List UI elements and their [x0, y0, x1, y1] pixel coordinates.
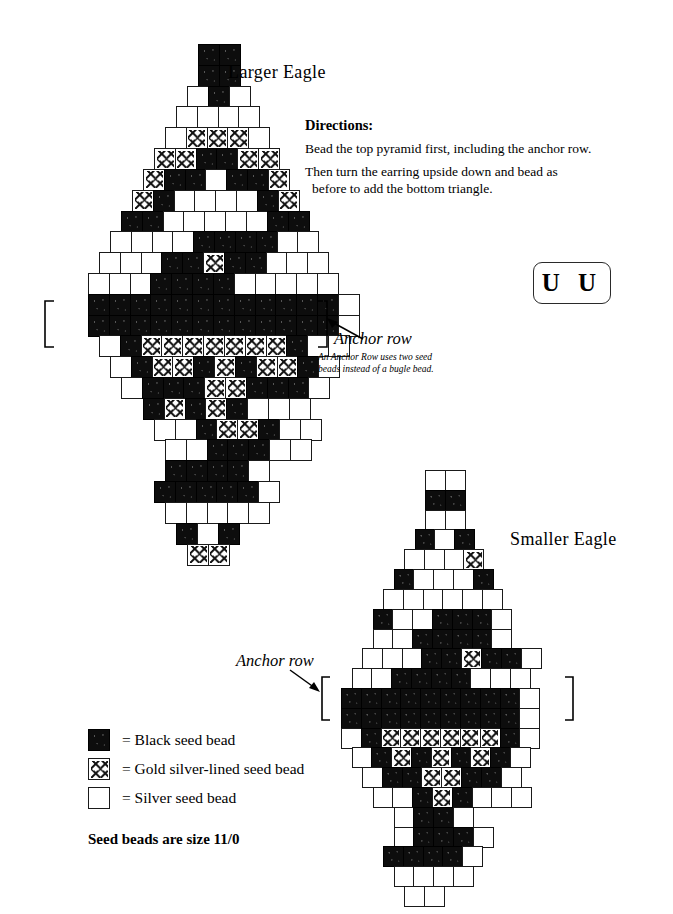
directions-heading: Directions: — [305, 117, 605, 134]
bead-cell-black — [109, 315, 131, 337]
bead-cell-gold — [258, 148, 280, 170]
bead-row — [373, 609, 541, 630]
bead-cell-black — [296, 315, 318, 337]
bead-cell-gold — [277, 356, 299, 378]
bead-cell-silver — [352, 747, 373, 768]
bead-row-anchor — [341, 688, 540, 709]
bead-row — [187, 544, 359, 566]
bead-cell-gold — [421, 767, 442, 788]
bead-cell-silver — [236, 190, 258, 212]
bead-cell-gold — [205, 398, 227, 420]
bead-cell-silver — [176, 106, 198, 128]
bead-cell-silver — [247, 398, 269, 420]
bead-cell-silver — [453, 807, 474, 828]
bead-cell-silver — [218, 106, 240, 128]
bead-cell-silver — [392, 609, 413, 630]
bead-cell-silver — [383, 589, 404, 610]
bead-row — [154, 481, 359, 503]
bead-row — [121, 377, 359, 399]
bead-cell-gold — [172, 356, 194, 378]
bead-cell-black — [163, 377, 185, 399]
bead-cell-silver — [163, 211, 185, 233]
directions-line-2a: Then turn the earring upside down and be… — [305, 164, 558, 179]
bead-cell-silver — [275, 273, 297, 295]
bead-cell-gold — [391, 747, 412, 768]
bead-cell-black — [413, 807, 434, 828]
bead-cell-silver — [207, 502, 229, 524]
bead-row — [404, 886, 540, 907]
bead-cell-gold — [266, 335, 288, 357]
bead-cell-silver — [521, 648, 542, 669]
bead-cell-black — [402, 767, 423, 788]
bead-cell-silver — [453, 866, 474, 887]
anchor-arrow-small — [288, 668, 322, 698]
bead-cell-gold — [461, 648, 482, 669]
legend-swatch-gold — [88, 758, 110, 780]
bead-cell-black — [501, 648, 522, 669]
bead-cell-black — [216, 481, 238, 503]
bead-cell-black — [500, 728, 521, 749]
bead-cell-silver — [165, 439, 187, 461]
bead-cell-silver — [121, 377, 143, 399]
bead-cell-silver — [187, 86, 209, 108]
anchor-row-note: An Anchor Row uses two seed beads instea… — [318, 351, 478, 375]
bead-cell-black — [130, 315, 152, 337]
bead-cell-silver — [462, 846, 483, 867]
bead-cell-black — [207, 460, 229, 482]
anchor-bracket-left-large — [42, 300, 56, 348]
bead-cell-gold — [400, 728, 421, 749]
anchor-bracket-left-small — [319, 676, 332, 721]
bead-cell-silver — [373, 787, 394, 808]
bead-cell-gold — [182, 335, 204, 357]
bead-cell-black — [150, 273, 172, 295]
bead-cell-black — [171, 273, 193, 295]
bead-row — [362, 767, 540, 788]
bead-cell-gold — [227, 127, 249, 149]
bead-cell-black — [391, 668, 412, 689]
bead-cell-black — [453, 827, 474, 848]
bead-cell-gold — [470, 747, 491, 768]
bead-cell-black — [420, 688, 441, 709]
bead-cell-black — [193, 356, 215, 378]
bead-cell-black — [442, 846, 463, 867]
bead-cell-black — [142, 211, 164, 233]
bead-cell-silver — [472, 787, 493, 808]
bead-cell-black — [237, 481, 259, 503]
bead-cell-black — [143, 398, 165, 420]
bead-cell-black — [120, 335, 142, 357]
bead-cell-gold — [154, 148, 176, 170]
bead-row — [121, 211, 359, 233]
bead-cell-black — [445, 490, 466, 511]
bead-cell-black — [415, 529, 436, 550]
bead-row — [394, 569, 541, 590]
bead-cell-silver — [186, 502, 208, 524]
bead-cell-black — [432, 609, 453, 630]
bead-cell-black — [207, 439, 229, 461]
bead-cell-black — [154, 481, 176, 503]
bead-cell-black — [431, 668, 452, 689]
bead-row — [352, 747, 541, 768]
bead-cell-gold — [187, 544, 209, 566]
bead-cell-silver — [215, 190, 237, 212]
bead-cell-black — [208, 86, 230, 108]
bead-cell-silver — [491, 787, 512, 808]
bead-cell-gold — [175, 148, 197, 170]
bead-cell-black — [452, 629, 473, 650]
bead-cell-black — [165, 460, 187, 482]
bead-cell-silver — [297, 231, 319, 253]
bead-cell-silver — [300, 419, 322, 441]
bead-row-anchor — [352, 668, 541, 689]
bead-cell-black — [480, 708, 501, 729]
bead-cell-silver — [519, 688, 540, 709]
bead-cell-gold — [225, 377, 247, 399]
bead-cell-gold — [204, 377, 226, 399]
bead-cell-black — [224, 252, 246, 274]
bead-cell-gold — [164, 398, 186, 420]
bead-cell-silver — [433, 866, 454, 887]
bead-cell-black — [192, 273, 214, 295]
bead-cell-silver — [141, 252, 163, 274]
bead-cell-silver — [424, 886, 445, 907]
bead-cell-black — [500, 688, 521, 709]
bead-cell-black — [341, 688, 362, 709]
bead-cell-black — [297, 356, 319, 378]
